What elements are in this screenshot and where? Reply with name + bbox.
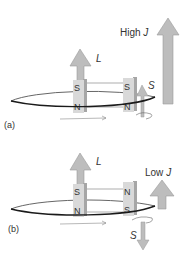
orbit-direction-arrow-icon: [60, 223, 106, 224]
l-label: L: [96, 156, 102, 167]
panel-b-label: (b): [8, 224, 19, 234]
bar-magnet-right: S N: [123, 77, 137, 112]
low-j-label: Low J: [145, 167, 172, 178]
spin-arrow-down-icon: [137, 222, 149, 250]
orbit-direction-arrow-icon: [60, 118, 106, 119]
svg-text:S: S: [74, 187, 80, 197]
svg-text:S: S: [124, 82, 130, 92]
low-j-arrow-icon: [150, 180, 174, 209]
s-label: S: [148, 80, 155, 91]
panel-a-label: (a): [4, 120, 15, 130]
panel-b: Low J L S N N S: [8, 153, 174, 250]
high-j-arrow-icon: [157, 18, 179, 104]
l-label: L: [96, 53, 102, 64]
high-j-label: High J: [120, 27, 149, 38]
panel-a: High J L S N S N S: [4, 18, 179, 130]
spin-orbit-coupling-diagram: High J L S N S N S: [0, 0, 187, 261]
bar-magnet-left: S N: [73, 183, 87, 217]
bar-magnet-left: S N: [73, 79, 87, 113]
svg-text:S: S: [124, 205, 130, 215]
svg-text:N: N: [124, 187, 131, 197]
orbital-angular-momentum-arrow-icon: [70, 153, 91, 185]
s-label: S: [130, 230, 137, 241]
svg-text:S: S: [74, 83, 80, 93]
orbital-angular-momentum-arrow-icon: [70, 49, 91, 82]
